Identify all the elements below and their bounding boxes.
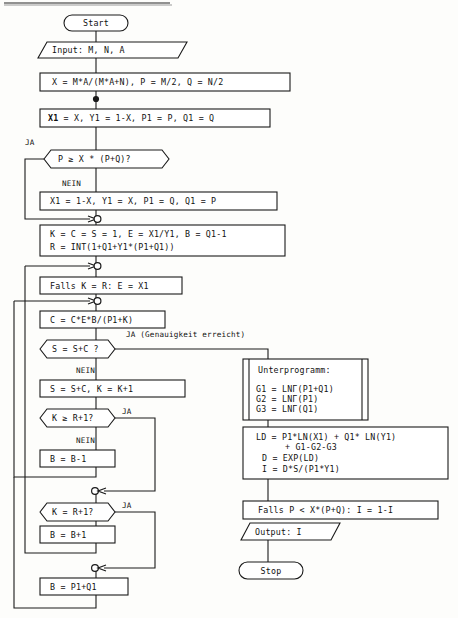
node-calc-line4: I = D*S/(P1*Y1) (262, 464, 340, 474)
node-dec3-yes-label: JA (122, 407, 132, 416)
node-dec4-label: K = R+1? (52, 507, 94, 517)
node-subprogram-line3: G3 = LNΓ(Q1) (256, 404, 318, 414)
node-bdec-label: B = B-1 (50, 454, 86, 464)
node-subprogram-line2: G2 = LNΓ(P1) (256, 394, 318, 404)
junction-ring-2 (94, 263, 101, 270)
node-output-label: Output: I (255, 527, 302, 537)
node-dec1-yes-label: JA (25, 138, 35, 147)
junction-dot-loopback-main (93, 96, 99, 102)
flowchart-canvas: Start Input: M, N, A X = M*A/(M*A+N), P … (0, 0, 458, 618)
node-subprogram-title: Unterprogramm: (258, 365, 331, 375)
edge-dec2-yes-to-subprogram (115, 349, 268, 359)
node-falls-k-label: Falls K = R: E = X1 (50, 281, 149, 291)
node-calc-line2: + G1-G2-G3 (285, 442, 337, 452)
node-binc-label: B = B+1 (50, 530, 86, 540)
node-dec2-no-label: NEIN (76, 366, 95, 375)
node-dec1-label: P ≥ X * (P+Q)? (58, 154, 131, 164)
node-cupd-label: C = C*E*B/(P1+K) (50, 315, 133, 325)
node-init2-bold: X1 (48, 113, 58, 123)
node-dec2-yes-label: JA (Genauigkeit erreicht) (126, 330, 245, 339)
node-input-label: Input: M, N, A (52, 45, 125, 55)
node-bset-label: B = P1+Q1 (50, 582, 97, 592)
node-dec3-no-label: NEIN (76, 436, 95, 445)
junction-ring-3 (94, 298, 101, 305)
node-fallsp-label: Falls P < X*(P+Q): I = 1-I (258, 505, 393, 515)
node-setup-line1: K = C = S = 1, E = X1/Y1, B = Q1-1 (50, 229, 227, 239)
node-stop-label: Stop (261, 566, 282, 576)
node-subprogram-line1: G1 = LNΓ(P1+Q1) (256, 384, 334, 394)
node-init2-label: X1 = X, Y1 = 1-X, P1 = P, Q1 = Q (48, 113, 214, 123)
node-calc-line3: D = EXP(LD) (262, 453, 319, 463)
node-init1-label: X = M*A/(M*A+N), P = M/2, Q = N/2 (52, 77, 223, 87)
node-setup-line2: R = INT(1+Q1+Y1*(P1+Q1)) (50, 242, 175, 252)
node-dec3-label: K ≥ R+1? (52, 413, 94, 423)
node-swap-label: X1 = 1-X, Y1 = X, P1 = Q, Q1 = P (50, 196, 216, 206)
node-dec1-no-label: NEIN (62, 179, 81, 188)
node-supd-label: S = S+C, K = K+1 (50, 384, 133, 394)
node-calc-line1: LD = P1*LN(X1) + Q1* LN(Y1) (256, 432, 396, 442)
node-dec4-yes-label: JA (122, 501, 132, 510)
junction-ring-1 (94, 216, 101, 223)
node-init2-rest: = X, Y1 = 1-X, P1 = P, Q1 = Q (58, 113, 214, 123)
node-dec2-label: S = S+C ? (52, 344, 99, 354)
node-start-label: Start (83, 18, 109, 28)
